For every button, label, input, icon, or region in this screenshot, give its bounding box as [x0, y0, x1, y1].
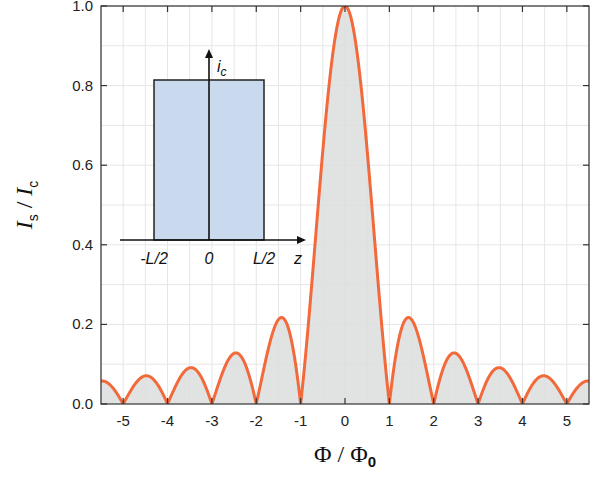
x-tick-label: -5 — [117, 412, 130, 429]
y-axis-title: Is / Ic — [11, 181, 41, 231]
x-tick-label: 2 — [430, 412, 438, 429]
x-tick-label: 0 — [341, 412, 349, 429]
y-tick-label: 1.0 — [72, 0, 93, 14]
y-tick-label: 0.4 — [72, 236, 93, 253]
y-tick-labels: 0.00.20.40.60.81.0 — [72, 0, 93, 412]
svg-text:Is / Ic: Is / Ic — [11, 181, 41, 231]
inset-tick-right: L/2 — [253, 250, 275, 267]
x-tick-label: -1 — [294, 412, 307, 429]
y-tick-label: 0.2 — [72, 315, 93, 332]
x-tick-label: 4 — [518, 412, 526, 429]
inset-tick-center: 0 — [205, 250, 214, 267]
x-tick-label: -4 — [161, 412, 174, 429]
inset-tick-left: -L/2 — [140, 250, 168, 267]
x-tick-label: -2 — [250, 412, 263, 429]
inset-y-label: ic — [217, 58, 227, 79]
x-tick-label: 3 — [474, 412, 482, 429]
x-axis-title: Φ / Φ0 — [314, 441, 376, 470]
fraunhofer-chart: -5-4-3-2-1012345 0.00.20.40.60.81.0 Φ / … — [0, 0, 606, 493]
x-tick-label: 5 — [563, 412, 571, 429]
y-tick-label: 0.6 — [72, 156, 93, 173]
x-tick-labels: -5-4-3-2-1012345 — [117, 412, 571, 429]
inset-x-label: z — [293, 250, 302, 267]
y-tick-label: 0.8 — [72, 77, 93, 94]
inset-x-arrow-icon — [297, 236, 306, 244]
x-tick-label: -3 — [205, 412, 218, 429]
x-tick-label: 1 — [385, 412, 393, 429]
y-tick-label: 0.0 — [72, 395, 93, 412]
